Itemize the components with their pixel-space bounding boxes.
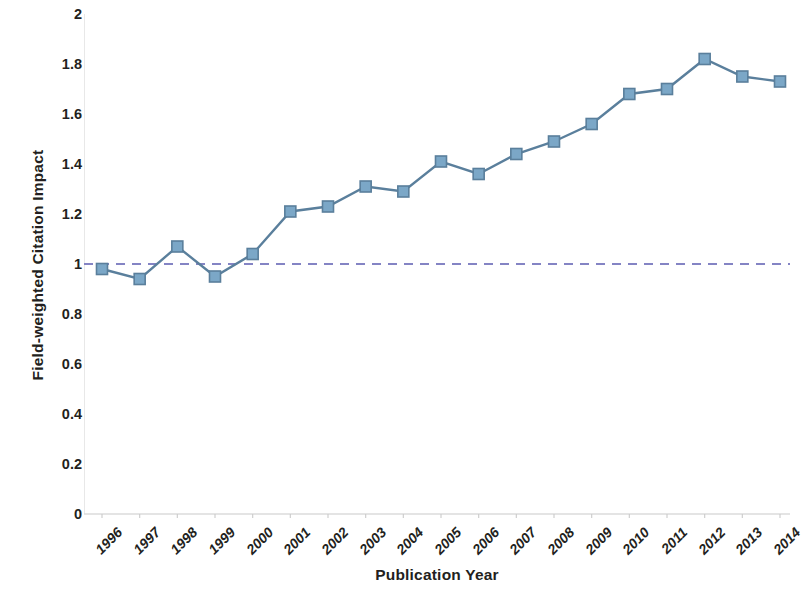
data-point-marker — [586, 119, 597, 130]
y-axis-tick-label: 0.8 — [30, 307, 82, 322]
x-axis-tick-label: 1999 — [205, 524, 238, 557]
x-axis-title: Publication Year — [84, 566, 790, 584]
y-axis-tick-label: 0 — [30, 507, 82, 522]
y-axis-tick-label: 0.6 — [30, 357, 82, 372]
data-point-marker — [549, 136, 560, 147]
x-axis-tick-label: 1997 — [130, 524, 163, 557]
x-axis-tick-label: 2003 — [356, 524, 389, 557]
x-axis-tick-label: 2005 — [431, 524, 464, 557]
x-axis-tick-label: 2002 — [318, 524, 351, 557]
x-axis-tick-label: 2007 — [506, 524, 539, 557]
x-axis-tick-label: 2014 — [770, 524, 803, 557]
x-axis-tick-label: 2009 — [582, 524, 615, 557]
data-point-marker — [662, 84, 673, 95]
data-point-marker — [436, 156, 447, 167]
plot-area — [84, 6, 790, 518]
y-axis-tick-label: 0.4 — [30, 407, 82, 422]
series-line — [102, 59, 780, 279]
data-point-marker — [473, 169, 484, 180]
y-axis-tick-label: 1 — [30, 257, 82, 272]
x-axis-tick-label: 2012 — [695, 524, 728, 557]
y-axis-tick-labels: 00.20.40.60.811.21.41.61.82 — [30, 0, 82, 530]
y-axis-tick-label: 1.6 — [30, 107, 82, 122]
data-point-marker — [699, 54, 710, 65]
axis-ticks — [84, 14, 780, 518]
data-point-marker — [323, 201, 334, 212]
x-axis-tick-label: 2008 — [544, 524, 577, 557]
series-markers — [97, 54, 786, 285]
x-axis-tick-label: 2006 — [469, 524, 502, 557]
x-axis-tick-label: 2011 — [658, 524, 691, 557]
data-point-marker — [737, 71, 748, 82]
x-axis-tick-label: 1998 — [167, 524, 200, 557]
y-axis-tick-label: 1.2 — [30, 207, 82, 222]
x-axis-tick-label: 2010 — [619, 524, 652, 557]
data-point-marker — [398, 186, 409, 197]
data-point-marker — [360, 181, 371, 192]
data-point-marker — [210, 271, 221, 282]
data-point-marker — [285, 206, 296, 217]
y-axis-tick-label: 2 — [30, 7, 82, 22]
data-point-marker — [624, 89, 635, 100]
x-axis-tick-label: 2013 — [732, 524, 765, 557]
data-point-marker — [172, 241, 183, 252]
data-point-marker — [511, 149, 522, 160]
y-axis-tick-label: 0.2 — [30, 457, 82, 472]
data-point-marker — [134, 274, 145, 285]
x-axis-tick-label: 2004 — [393, 524, 426, 557]
y-axis-tick-label: 1.8 — [30, 57, 82, 72]
x-axis-tick-label: 2001 — [280, 524, 313, 557]
data-point-marker — [97, 264, 108, 275]
data-point-marker — [775, 76, 786, 87]
y-axis-tick-label: 1.4 — [30, 157, 82, 172]
data-point-marker — [247, 249, 258, 260]
x-axis-tick-label: 1996 — [92, 524, 125, 557]
x-axis-tick-label: 2000 — [243, 524, 276, 557]
